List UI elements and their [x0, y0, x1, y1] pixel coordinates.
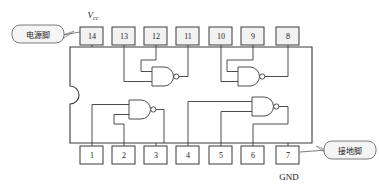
vcc-subscript: cc [93, 15, 99, 21]
gnd-label: GND [279, 172, 299, 182]
vcc-label: Vcc [88, 10, 99, 21]
callout-power-pin-label: 电源脚 [26, 30, 50, 40]
pin-10-label: 10 [217, 32, 225, 41]
pin-9[interactable]: 9 [241, 27, 264, 45]
chip-body [70, 47, 312, 143]
pin-8-label: 8 [286, 32, 290, 41]
pins-top-group: 14 13 12 11 10 9 [80, 27, 299, 45]
pin-7-label: 7 [286, 151, 290, 160]
pin-4-label: 4 [186, 151, 190, 160]
ic-pinout-diagram: 14 13 12 11 10 9 [0, 0, 379, 189]
pin-14-label: 14 [88, 32, 96, 41]
pin-2-label: 2 [122, 151, 126, 160]
pin-5-label: 5 [219, 151, 223, 160]
pin-1[interactable]: 1 [80, 146, 103, 164]
pin-9-label: 9 [251, 32, 255, 41]
pin-12-label: 12 [152, 32, 160, 41]
pin-13[interactable]: 13 [112, 27, 135, 45]
callout-ground-pin[interactable]: 接地脚 [300, 141, 376, 159]
pin-6-label: 6 [251, 151, 255, 160]
pin-10[interactable]: 10 [209, 27, 232, 45]
pin-12[interactable]: 12 [144, 27, 167, 45]
pin-3-label: 3 [154, 151, 158, 160]
pin-11-label: 11 [184, 32, 192, 41]
callout-power-pin[interactable]: 电源脚 [12, 25, 80, 43]
pin-14[interactable]: 14 [80, 27, 103, 45]
callout-ground-pin-label: 接地脚 [338, 146, 362, 156]
pin-13-label: 13 [120, 32, 128, 41]
pin-7[interactable]: 7 [276, 146, 299, 164]
pins-bottom-group: 1 2 3 4 5 6 7 [80, 146, 299, 164]
pin-3[interactable]: 3 [144, 146, 167, 164]
pin-6[interactable]: 6 [241, 146, 264, 164]
pin-2[interactable]: 2 [112, 146, 135, 164]
pin-5[interactable]: 5 [209, 146, 232, 164]
pin-11[interactable]: 11 [176, 27, 199, 45]
pin-4[interactable]: 4 [176, 146, 199, 164]
pin-8[interactable]: 8 [276, 27, 299, 45]
pin-1-label: 1 [90, 151, 94, 160]
